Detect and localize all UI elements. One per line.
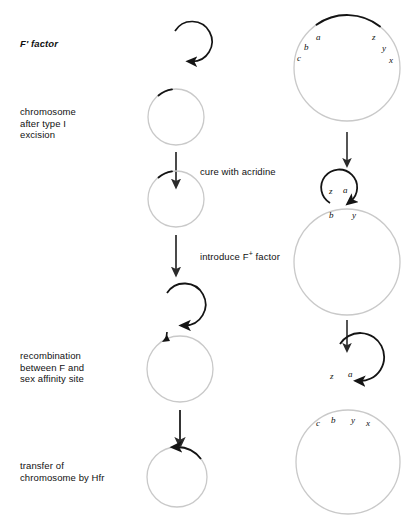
chromosome-circle-type-i-ring xyxy=(148,89,204,145)
diagram-svg xyxy=(0,0,412,526)
gene-label-b-residual: b xyxy=(331,415,336,425)
figure-canvas: F' factor chromosome after type I excisi… xyxy=(0,0,412,526)
gene-label-z-top: z xyxy=(372,32,376,42)
f-prime-factor-circle-arc xyxy=(175,22,212,62)
gene-label-b-top: b xyxy=(304,42,309,52)
f-region-dark-arc-top xyxy=(317,15,381,26)
gene-label-y-excision: y xyxy=(352,210,356,220)
gene-label-x-residual: x xyxy=(366,418,370,428)
cured-chromosome-circle-dark-arc xyxy=(159,171,173,177)
gene-label-y-residual: y xyxy=(351,415,355,425)
recombination-chromosome-circle xyxy=(147,336,213,402)
gene-label-z-loop: z xyxy=(329,186,333,196)
excision-chromosome-ring xyxy=(294,209,400,315)
residual-chromosome-ring xyxy=(296,410,400,514)
gene-label-b-excision: b xyxy=(329,210,334,220)
gene-label-x-top: x xyxy=(389,55,393,65)
recombination-junction-line xyxy=(166,332,167,340)
hfr-chromosome-transfer-arc xyxy=(176,447,201,459)
gene-label-y-top: y xyxy=(382,43,386,53)
f-plus-factor-circle-arc xyxy=(167,284,206,326)
chromosome-circle-type-i xyxy=(148,89,204,145)
hfr-chromosome-with-genes-ring xyxy=(294,15,400,121)
hfr-chromosome-with-genes xyxy=(294,15,400,121)
recombination-figure xyxy=(147,284,213,402)
gene-label-c-top: c xyxy=(297,53,301,63)
gene-label-c-residual: c xyxy=(316,418,320,428)
gene-label-a-loop: a xyxy=(343,185,348,195)
gene-label-a-top: a xyxy=(316,32,321,42)
gene-label-z-f-prime: z xyxy=(330,371,334,381)
excision-loop-arc xyxy=(321,170,357,203)
chromosome-circle-type-i-dark-arc xyxy=(159,89,173,95)
gene-label-a-f-prime: a xyxy=(348,369,353,379)
f-prime-factor-circle xyxy=(175,22,212,62)
hfr-chromosome-circle xyxy=(147,447,207,507)
